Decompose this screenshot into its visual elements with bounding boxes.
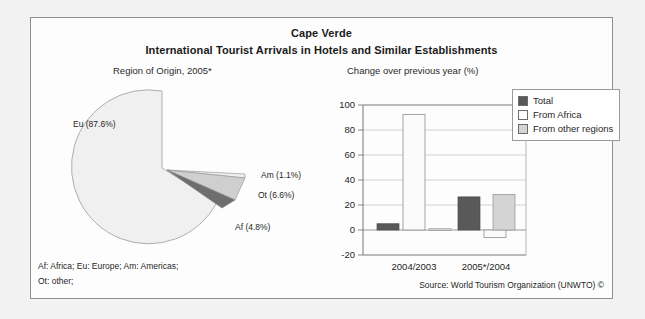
bar-xtick-2005-2004: 2005*/2004 [462,261,511,272]
bar-xtick-2004-2003: 2004/2003 [392,261,437,272]
pie-label-eu: Eu (87.6%) [73,119,116,129]
bar-2005-2004-from-africa [484,230,506,238]
bar-ytick-40: 40 [344,174,355,185]
source-note: Source: World Tourism Organization (UNWT… [419,280,604,290]
figure-frame: Cape Verde International Tourist Arrival… [30,17,613,299]
bar-2004-2003-total [377,224,399,230]
pie-label-ot: Ot (6.6%) [258,190,294,200]
bar-chart-legend: Total From Africa From other regions [512,89,620,141]
bar-ytick-minus20: -20 [341,249,355,260]
legend-item-from-africa[interactable]: From Africa [518,108,613,122]
legend-label-from-africa: From Africa [533,110,582,120]
bar-chart-yticks [358,105,363,255]
legend-label-total: Total [533,96,553,106]
page-title: Cape Verde [31,27,612,39]
legend-swatch-from-africa-icon [518,110,528,120]
pie-chart-subtitle: Region of Origin, 2005* [113,65,212,76]
bar-chart-subtitle: Change over previous year (%) [347,65,478,76]
pie-chart-svg [39,80,329,255]
pie-chart: Eu (87.6%) Am (1.1%) Ot (6.6%) Af (4.8%) [39,80,329,255]
page-subtitle: International Tourist Arrivals in Hotels… [31,44,612,56]
legend-item-from-other-regions[interactable]: From other regions [518,122,613,136]
pie-label-am: Am (1.1%) [261,170,301,180]
legend-item-total[interactable]: Total [518,94,613,108]
bar-ytick-0: 0 [350,224,355,235]
bar-ytick-20: 20 [344,199,355,210]
legend-swatch-total-icon [518,96,528,106]
bar-ytick-100: 100 [339,99,355,110]
legend-swatch-from-other-regions-icon [518,124,528,134]
bar-2005-2004-from-other-regions [493,194,515,230]
pie-label-af: Af (4.8%) [235,222,270,232]
bar-ytick-60: 60 [344,149,355,160]
bar-2005-2004-total [458,197,480,230]
pie-slice-eu [72,90,217,244]
bar-ytick-80: 80 [344,124,355,135]
footnote-abbreviations-line1: Af: Africa; Eu: Europe; Am: Americas; [38,261,178,271]
footnote-abbreviations-line2: Ot: other; [38,276,73,286]
legend-label-from-other-regions: From other regions [533,124,613,134]
bar-2004-2003-from-other-regions [429,229,451,231]
bar-2004-2003-from-africa [403,114,425,230]
